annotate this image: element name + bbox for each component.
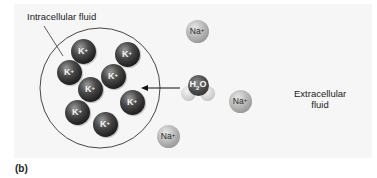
arrow-icon	[141, 85, 180, 91]
ion-symbol: Na	[233, 96, 244, 106]
ion-charge: +	[106, 120, 110, 126]
ion-charge: +	[133, 98, 137, 104]
ion-symbol: Na	[190, 26, 201, 36]
intracellular-fluid-label: Intracellular fluid	[27, 12, 96, 23]
potassium-ion: K+	[115, 42, 140, 67]
potassium-ion: K+	[65, 100, 90, 125]
sodium-ion: Na+	[186, 20, 209, 43]
water-molecule: H2O	[181, 74, 215, 104]
ion-charge: +	[244, 97, 248, 103]
potassium-ion: K+	[57, 60, 82, 85]
ion-charge: +	[70, 68, 74, 74]
extracellular-line-2: fluid	[294, 100, 346, 111]
potassium-ion: K+	[101, 64, 126, 89]
ion-charge: +	[201, 27, 205, 33]
intracellular-leader-line	[44, 26, 63, 56]
water-o: O	[199, 79, 206, 89]
ion-charge: +	[114, 72, 118, 78]
potassium-ion: K+	[93, 112, 118, 137]
ion-charge: +	[172, 132, 176, 138]
potassium-ion: K+	[78, 77, 103, 102]
sodium-ion: Na+	[229, 90, 252, 113]
sodium-ion: Na+	[157, 125, 180, 148]
figure-panel-label: (b)	[15, 163, 28, 174]
potassium-ion: K+	[71, 39, 96, 64]
ion-charge: +	[128, 50, 132, 56]
water-formula: H2O	[181, 79, 215, 91]
ion-charge: +	[78, 108, 82, 114]
ion-symbol: Na	[161, 131, 172, 141]
potassium-ion: K+	[120, 90, 145, 115]
extracellular-fluid-label: Extracellular fluid	[294, 89, 346, 111]
ion-charge: +	[84, 47, 88, 53]
ion-charge: +	[91, 85, 95, 91]
